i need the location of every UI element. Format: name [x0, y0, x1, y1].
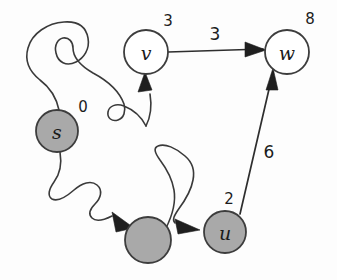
edge-u-to-w [240, 68, 278, 214]
node-s[interactable]: s 0 [36, 98, 88, 152]
node-u[interactable]: u 2 [204, 190, 246, 253]
node-u-distance: 2 [224, 190, 234, 208]
edge-weight-v-to-w: 3 [210, 24, 221, 44]
edge-s-to-x [49, 152, 134, 232]
node-v[interactable]: v 3 [124, 12, 173, 74]
edge-weight-u-to-w: 6 [264, 142, 275, 162]
node-s-distance: 0 [78, 98, 88, 116]
node-v-letter: v [141, 42, 152, 64]
graph-svg: s 0 v 3 w 8 u 2 3 6 [0, 0, 337, 280]
node-x-circle[interactable] [125, 217, 171, 263]
edge-v-to-w [168, 42, 266, 57]
arrowhead-s-to-v [138, 72, 152, 92]
node-v-distance: 3 [163, 12, 173, 30]
graph-diagram-canvas: s 0 v 3 w 8 u 2 3 6 [0, 0, 337, 280]
node-w[interactable]: w 8 [265, 10, 315, 74]
node-s-letter: s [52, 121, 62, 143]
node-w-letter: w [279, 42, 295, 64]
node-x-unlabeled[interactable] [125, 217, 171, 263]
edge-s-to-x-path [49, 152, 112, 220]
edge-x-to-u-path [155, 145, 194, 228]
node-u-letter: u [219, 222, 231, 244]
arrowhead-x-to-u [175, 219, 200, 234]
arrowhead-v-to-w [245, 42, 266, 57]
edge-s-to-v-tail [146, 94, 151, 126]
node-w-distance: 8 [305, 10, 315, 28]
